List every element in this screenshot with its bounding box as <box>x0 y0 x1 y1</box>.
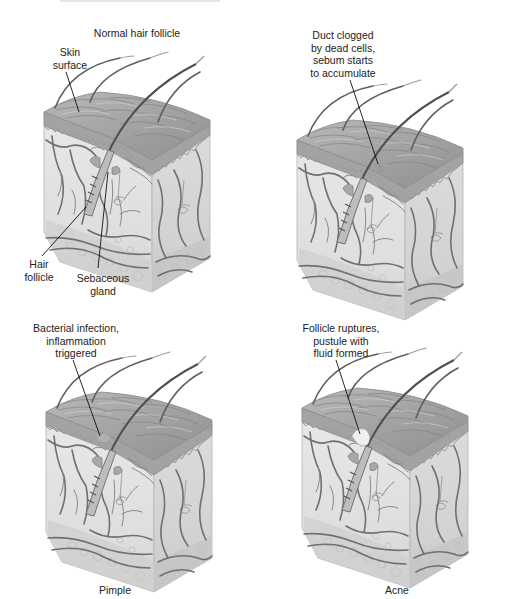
label-duct-clogged: Duct clogged by dead cells, sebum starts… <box>288 29 398 79</box>
panel-pimple <box>46 352 212 592</box>
caption-acne: Acne <box>372 584 422 596</box>
cropped-top-text <box>60 0 220 2</box>
acne-progression-diagram <box>0 0 510 599</box>
panel-normal-hair-follicle <box>42 52 210 292</box>
caption-pimple: Pimple <box>90 584 140 596</box>
label-bacterial-infection: Bacterial infection, inflammation trigge… <box>16 322 136 360</box>
label-skin-surface: Skin surface <box>40 46 100 71</box>
label-sebaceous-gland: Sebaceous gland <box>68 272 138 297</box>
panel-acne <box>302 348 468 588</box>
label-follicle-ruptures: Follicle ruptures, pustule with fluid fo… <box>282 322 400 360</box>
heading-normal-hair-follicle: Normal hair follicle <box>72 27 202 40</box>
label-hair-follicle: Hair follicle <box>14 258 64 283</box>
panel-duct-clogged <box>297 80 463 320</box>
